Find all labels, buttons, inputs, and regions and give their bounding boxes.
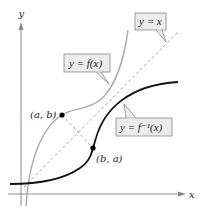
axes: y x [8,8,195,206]
callout-f-inverse-label: y = f⁻¹(x) [119,121,163,134]
point-ba [90,145,95,150]
point-ab [59,112,64,117]
callout-f-pointer [96,72,109,84]
inverse-function-diagram: y x (a, b) (b, a) y = f(x) y = x y = f⁻¹… [0,0,201,210]
callout-f-inverse-pointer [124,104,136,118]
point-ab-label: (a, b) [30,109,57,120]
callout-identity-label: y = x [138,15,162,27]
callout-f-inverse: y = f⁻¹(x) [116,104,172,136]
y-axis-label: y [18,8,25,19]
callout-identity-pointer [156,30,166,42]
reflection-segment [62,115,93,148]
y-axis-arrow [19,22,24,30]
callout-f-label: y = f(x) [68,57,102,70]
callout-f: y = f(x) [64,54,110,84]
point-ba-label: (b, a) [96,153,123,164]
x-axis-arrow [178,192,186,197]
callout-identity: y = x [135,13,166,42]
x-axis-label: x [189,189,195,200]
